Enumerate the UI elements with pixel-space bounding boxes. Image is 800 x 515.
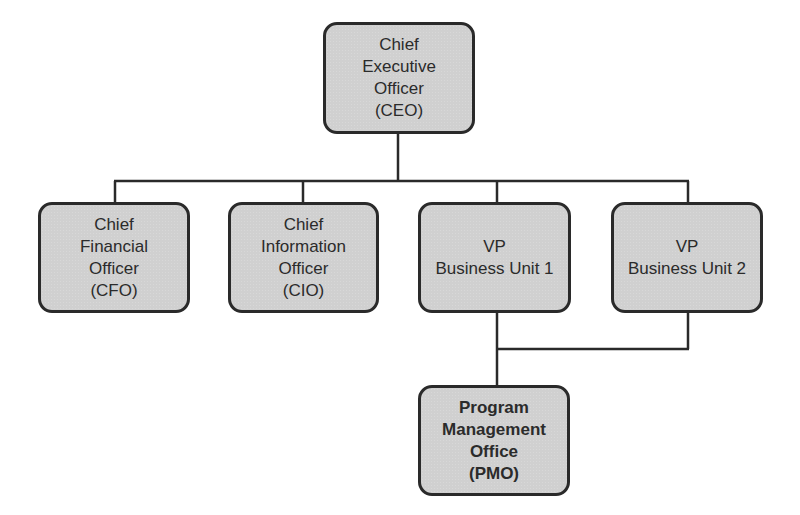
cio-label-line-1: Chief bbox=[261, 214, 346, 236]
cfo-label-line-1: Chief bbox=[80, 214, 148, 236]
pmo-label-line-3: Office bbox=[442, 441, 546, 463]
cfo-label-line-3: Officer bbox=[80, 258, 148, 280]
vp1-box: VP Business Unit 1 bbox=[418, 202, 571, 313]
vp2-box: VP Business Unit 2 bbox=[611, 202, 763, 313]
pmo-label-line-2: Management bbox=[442, 419, 546, 441]
ceo-label-line-4: (CEO) bbox=[362, 100, 436, 122]
vp1-label-line-1: VP bbox=[435, 236, 553, 258]
cio-label-line-3: Officer bbox=[261, 258, 346, 280]
pmo-label-line-1: Program bbox=[442, 397, 546, 419]
vp2-label-line-1: VP bbox=[628, 236, 746, 258]
cio-label-line-4: (CIO) bbox=[261, 280, 346, 302]
vp1-label-line-2: Business Unit 1 bbox=[435, 258, 553, 280]
ceo-box: Chief Executive Officer (CEO) bbox=[323, 22, 475, 134]
ceo-label-line-2: Executive bbox=[362, 56, 436, 78]
vp2-label-line-2: Business Unit 2 bbox=[628, 258, 746, 280]
cio-label-line-2: Information bbox=[261, 236, 346, 258]
org-chart: Chief Executive Officer (CEO) Chief Fina… bbox=[0, 0, 800, 515]
cio-box: Chief Information Officer (CIO) bbox=[228, 202, 379, 313]
pmo-label-line-4: (PMO) bbox=[442, 463, 546, 485]
ceo-label-line-3: Officer bbox=[362, 78, 436, 100]
ceo-label-line-1: Chief bbox=[362, 34, 436, 56]
cfo-label-line-4: (CFO) bbox=[80, 280, 148, 302]
cfo-label-line-2: Financial bbox=[80, 236, 148, 258]
pmo-box: Program Management Office (PMO) bbox=[418, 385, 570, 496]
cfo-box: Chief Financial Officer (CFO) bbox=[38, 202, 190, 313]
